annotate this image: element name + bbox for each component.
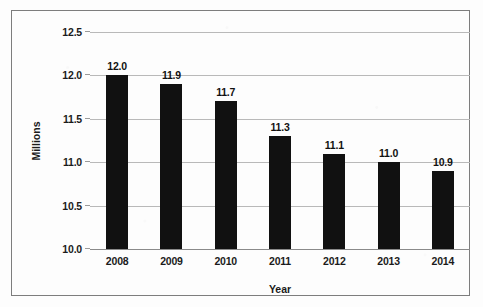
y-axis-tick-label: 11.0: [63, 156, 82, 168]
bar-value-label: 10.9: [433, 156, 453, 168]
x-axis-tick-label: 2014: [432, 255, 455, 267]
chart-frame: Millions 10.010.511.011.512.012.512.0200…: [11, 10, 470, 296]
y-tick-mark: [85, 161, 90, 162]
y-tick-mark: [85, 74, 90, 75]
gridline: [90, 119, 470, 120]
y-tick-mark: [85, 248, 90, 249]
x-axis-title: Year: [90, 283, 470, 295]
x-axis-tick-label: 2012: [323, 255, 346, 267]
bar[interactable]: 11.0: [378, 162, 400, 249]
x-axis-tick-label: 2010: [214, 255, 237, 267]
bar-value-label: 11.7: [216, 86, 235, 98]
y-axis-tick-label: 10.0: [62, 243, 82, 255]
y-tick-mark: [85, 31, 90, 32]
y-axis-tick-label: 10.5: [62, 200, 82, 212]
gridline: [90, 75, 470, 76]
gridline: [90, 32, 470, 33]
y-tick-mark: [85, 118, 90, 119]
bar-value-label: 11.0: [379, 147, 398, 159]
y-axis-tick-label: 11.5: [63, 113, 82, 125]
bar-value-label: 11.3: [270, 121, 289, 133]
x-axis-tick-label: 2009: [160, 255, 183, 267]
y-tick-mark: [85, 205, 90, 206]
x-axis-tick-label: 2011: [269, 255, 291, 267]
y-axis-title: Millions: [30, 121, 42, 160]
bar[interactable]: 11.3: [269, 136, 291, 249]
bar-value-label: 11.1: [325, 139, 344, 151]
bar-value-label: 12.0: [107, 60, 127, 72]
x-axis-tick-label: 2008: [106, 255, 129, 267]
bar-value-label: 11.9: [162, 69, 181, 81]
y-axis-tick-label: 12.5: [62, 26, 82, 38]
plot-area: 10.010.511.011.512.012.512.0200811.92009…: [90, 32, 470, 249]
bar[interactable]: 12.0: [106, 75, 128, 249]
axis-baseline: [90, 249, 470, 250]
x-axis-tick-label: 2013: [377, 255, 400, 267]
bar[interactable]: 11.1: [323, 154, 345, 249]
y-axis-tick-label: 12.0: [62, 69, 82, 81]
page-background: Millions 10.010.511.011.512.012.512.0200…: [0, 0, 483, 307]
bar[interactable]: 11.9: [160, 84, 182, 249]
bar[interactable]: 10.9: [432, 171, 454, 249]
bar[interactable]: 11.7: [215, 101, 237, 249]
